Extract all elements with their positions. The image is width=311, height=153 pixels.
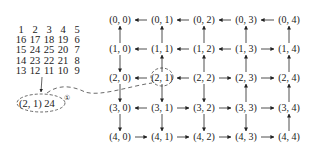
grid-node: (4, 2) xyxy=(193,132,215,142)
grid-node: (0, 1) xyxy=(151,15,173,25)
grid-node: (2, 0) xyxy=(109,73,131,83)
grid-node: (1, 4) xyxy=(278,44,300,54)
grid-node: (4, 1) xyxy=(151,132,173,142)
spiral-to-callout-arrow xyxy=(41,77,42,92)
grid-node: (3, 1) xyxy=(151,103,173,113)
callout-ellipse xyxy=(17,94,65,112)
grid-node: (0, 3) xyxy=(235,15,257,25)
grid-node: (1, 0) xyxy=(109,44,131,54)
grid-node: (0, 0) xyxy=(109,15,131,25)
grid-node: (4, 3) xyxy=(235,132,257,142)
grid-node: (1, 2) xyxy=(193,44,215,54)
grid-node: (3, 4) xyxy=(278,103,300,113)
dashed-connector xyxy=(47,83,152,93)
grid-node: (3, 3) xyxy=(235,103,257,113)
grid-node: (0, 2) xyxy=(193,15,215,25)
grid-node: (0, 4) xyxy=(278,15,300,25)
grid-node-highlighted: (2, 1) xyxy=(151,73,173,83)
grid-node: (2, 2) xyxy=(193,73,215,83)
grid-node: (2, 3) xyxy=(235,73,257,83)
grid-node: (3, 0) xyxy=(109,103,131,113)
diagram: 1 2 3 4 5 16 17 18 19 6 15 24 25 20 7 14… xyxy=(0,0,311,153)
grid-node: (1, 1) xyxy=(151,44,173,54)
grid-node: (1, 3) xyxy=(235,44,257,54)
grid-node: (4, 4) xyxy=(278,132,300,142)
grid-node: (4, 0) xyxy=(109,132,131,142)
grid-node: (3, 2) xyxy=(193,103,215,113)
grid-node: (2, 4) xyxy=(278,73,300,83)
